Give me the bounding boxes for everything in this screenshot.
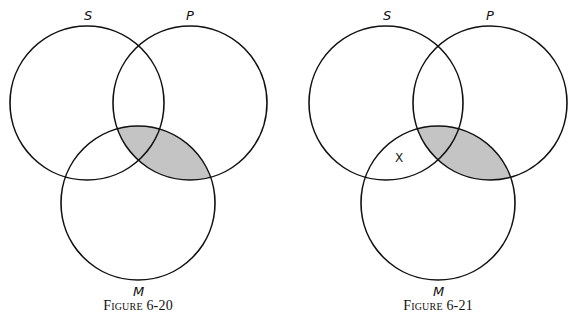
label-p: P — [186, 8, 194, 23]
label-m: M — [133, 284, 144, 299]
label-s: S — [383, 8, 391, 23]
label-p: P — [486, 8, 494, 23]
caption-figure-6-21: Figure 6-21 — [403, 298, 473, 314]
figure-6-21: S P M X — [309, 8, 567, 299]
circle-s — [10, 26, 164, 180]
caption-figure-6-20: Figure 6-20 — [103, 298, 173, 314]
figure-6-20: S P M — [10, 8, 267, 299]
label-s: S — [84, 8, 92, 23]
label-m: M — [433, 284, 444, 299]
circle-s — [309, 26, 463, 180]
venn-diagrams: S P M S P M X — [0, 0, 574, 318]
x-mark: X — [395, 151, 403, 165]
